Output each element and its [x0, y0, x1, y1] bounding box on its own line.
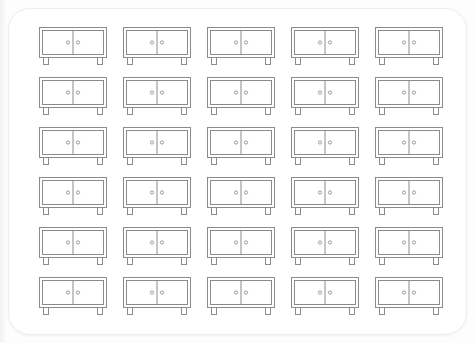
icon-cell	[31, 73, 115, 123]
cabinet-knob-right	[244, 91, 247, 94]
sideboard-cabinet-icon	[36, 23, 110, 73]
sideboard-cabinet-icon	[36, 223, 110, 273]
cabinet-knob-right	[412, 241, 415, 244]
cabinet-knob-left	[234, 291, 237, 294]
icon-cell	[31, 173, 115, 223]
icon-cell	[283, 173, 367, 223]
cabinet-knob-left	[66, 41, 69, 44]
cabinet-knob-left	[318, 291, 321, 294]
cabinet-knob-right	[328, 241, 331, 244]
cabinet-knob-left	[66, 141, 69, 144]
sideboard-cabinet-icon	[372, 123, 446, 173]
cabinet-knob-left	[234, 191, 237, 194]
cabinet-knob-left	[66, 241, 69, 244]
icon-cell	[367, 23, 451, 73]
cabinet-knob-right	[412, 191, 415, 194]
cabinet-knob-right	[412, 291, 415, 294]
sideboard-cabinet-icon	[204, 23, 278, 73]
sideboard-cabinet-icon	[120, 273, 194, 323]
cabinet-knob-right	[328, 291, 331, 294]
cabinet-knob-right	[76, 41, 79, 44]
icon-cell	[115, 123, 199, 173]
icon-grid	[31, 23, 451, 323]
cabinet-knob-right	[160, 91, 163, 94]
cabinet-knob-right	[76, 291, 79, 294]
cabinet-knob-left	[318, 141, 321, 144]
cabinet-knob-left	[318, 41, 321, 44]
cabinet-knob-left	[150, 41, 153, 44]
sideboard-cabinet-icon	[36, 173, 110, 223]
sideboard-cabinet-icon	[120, 223, 194, 273]
cabinet-knob-right	[328, 41, 331, 44]
image-canvas	[0, 0, 475, 343]
sideboard-cabinet-icon	[204, 173, 278, 223]
cabinet-knob-left	[318, 241, 321, 244]
icon-cell	[31, 223, 115, 273]
cabinet-knob-right	[160, 291, 163, 294]
cabinet-knob-left	[150, 91, 153, 94]
icon-cell	[115, 223, 199, 273]
icon-cell	[115, 23, 199, 73]
icon-cell	[367, 73, 451, 123]
cabinet-knob-right	[76, 141, 79, 144]
icon-cell	[283, 223, 367, 273]
cabinet-knob-right	[160, 41, 163, 44]
sideboard-cabinet-icon	[120, 73, 194, 123]
sideboard-cabinet-icon	[288, 223, 362, 273]
cabinet-knob-right	[412, 91, 415, 94]
cabinet-knob-left	[402, 91, 405, 94]
cabinet-knob-right	[160, 141, 163, 144]
icon-cell	[31, 123, 115, 173]
sideboard-cabinet-icon	[288, 23, 362, 73]
sideboard-cabinet-icon	[36, 123, 110, 173]
icon-cell	[199, 273, 283, 323]
sideboard-cabinet-icon	[204, 223, 278, 273]
sideboard-cabinet-icon	[372, 23, 446, 73]
icon-cell	[115, 73, 199, 123]
sideboard-cabinet-icon	[204, 273, 278, 323]
cabinet-knob-left	[318, 191, 321, 194]
icon-cell	[31, 273, 115, 323]
icon-cell	[199, 73, 283, 123]
cabinet-knob-left	[66, 91, 69, 94]
icon-cell	[199, 223, 283, 273]
sideboard-cabinet-icon	[288, 73, 362, 123]
cabinet-knob-left	[402, 291, 405, 294]
cabinet-knob-left	[402, 241, 405, 244]
icon-cell	[199, 123, 283, 173]
icon-cell	[283, 73, 367, 123]
left-edge-band	[0, 0, 5, 343]
cabinet-knob-left	[150, 191, 153, 194]
cabinet-knob-left	[402, 41, 405, 44]
cabinet-knob-right	[412, 41, 415, 44]
cabinet-knob-right	[76, 241, 79, 244]
sideboard-cabinet-icon	[372, 273, 446, 323]
icon-cell	[367, 173, 451, 223]
cabinet-knob-right	[76, 191, 79, 194]
icon-cell	[367, 223, 451, 273]
cabinet-knob-left	[234, 241, 237, 244]
cabinet-knob-right	[328, 191, 331, 194]
sideboard-cabinet-icon	[204, 123, 278, 173]
cabinet-knob-right	[244, 241, 247, 244]
cabinet-knob-right	[328, 141, 331, 144]
cabinet-knob-right	[328, 91, 331, 94]
sideboard-cabinet-icon	[372, 223, 446, 273]
cabinet-knob-right	[244, 41, 247, 44]
icon-cell	[115, 273, 199, 323]
cabinet-knob-left	[402, 141, 405, 144]
sideboard-cabinet-icon	[204, 73, 278, 123]
icon-cell	[283, 273, 367, 323]
icon-cell	[199, 173, 283, 223]
icon-cell	[31, 23, 115, 73]
cabinet-knob-right	[244, 191, 247, 194]
sideboard-cabinet-icon	[288, 273, 362, 323]
cabinet-knob-right	[76, 91, 79, 94]
sideboard-cabinet-icon	[36, 73, 110, 123]
cabinet-knob-left	[234, 41, 237, 44]
cabinet-knob-left	[234, 91, 237, 94]
sideboard-cabinet-icon	[288, 123, 362, 173]
cabinet-knob-left	[66, 291, 69, 294]
sideboard-cabinet-icon	[120, 23, 194, 73]
icon-cell	[367, 273, 451, 323]
